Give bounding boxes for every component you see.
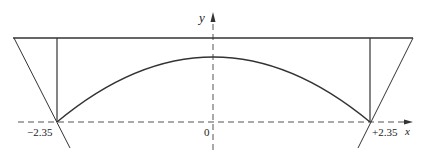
- right-tick-label: +2.35: [372, 126, 398, 138]
- y-axis-label: y: [197, 10, 205, 25]
- origin-label: 0: [204, 126, 210, 138]
- x-axis-label: x: [404, 125, 410, 137]
- parabola-diagram: y x 0 −2.35 +2.35: [0, 0, 427, 161]
- left-tick-label: −2.35: [27, 126, 53, 138]
- x-axis-arrow-icon: [404, 120, 413, 125]
- y-axis-arrow-icon: [211, 12, 216, 22]
